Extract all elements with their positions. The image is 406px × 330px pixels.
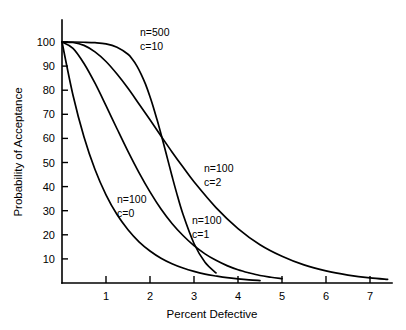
y-axis-tick-labels: 102030405060708090100 (37, 36, 55, 265)
x-tick-label-6: 6 (323, 290, 329, 302)
ann-n100-c0-line2: c=0 (117, 207, 134, 219)
y-tick-label-100: 100 (37, 36, 55, 48)
y-tick-label-20: 20 (43, 229, 55, 241)
x-axis-title: Percent Defective (167, 308, 258, 320)
ann-n100-c2-line2: c=2 (204, 176, 221, 188)
y-tick-label-80: 80 (43, 84, 55, 96)
ann-n100-c0-line1: n=100 (117, 193, 147, 205)
ann-n100-c1-line2: c=1 (192, 228, 209, 240)
ann-n100-c1: n=100c=1 (192, 214, 222, 240)
curve-n-100-c-2 (62, 42, 388, 279)
chart-canvas: 102030405060708090100 1234567 n=500c=10n… (0, 0, 406, 330)
y-tick-label-70: 70 (43, 108, 55, 120)
y-tick-label-90: 90 (43, 60, 55, 72)
y-tick-label-60: 60 (43, 132, 55, 144)
oc-curve-chart: 102030405060708090100 1234567 n=500c=10n… (0, 0, 406, 330)
ann-n100-c0: n=100c=0 (117, 193, 147, 219)
x-axis-tick-labels: 1234567 (103, 290, 373, 302)
y-tick-label-50: 50 (43, 157, 55, 169)
x-tick-label-7: 7 (367, 290, 373, 302)
y-axis-ticks (62, 42, 68, 259)
ann-n500-c10-line1: n=500 (140, 26, 170, 38)
ann-n500-c10: n=500c=10 (140, 26, 170, 52)
y-tick-label-40: 40 (43, 181, 55, 193)
x-tick-label-2: 2 (147, 290, 153, 302)
ann-n100-c1-line1: n=100 (192, 214, 222, 226)
x-tick-label-4: 4 (235, 290, 241, 302)
ann-n500-c10-line2: c=10 (140, 40, 163, 52)
curve-n-100-c-1 (62, 42, 282, 279)
x-tick-label-1: 1 (103, 290, 109, 302)
x-tick-label-3: 3 (191, 290, 197, 302)
y-axis-title: Probability of Acceptance (12, 87, 24, 216)
x-tick-label-5: 5 (279, 290, 285, 302)
ann-n100-c2: n=100c=2 (204, 162, 234, 188)
y-tick-label-30: 30 (43, 205, 55, 217)
axes (62, 20, 392, 283)
y-tick-label-10: 10 (43, 253, 55, 265)
ann-n100-c2-line1: n=100 (204, 162, 234, 174)
